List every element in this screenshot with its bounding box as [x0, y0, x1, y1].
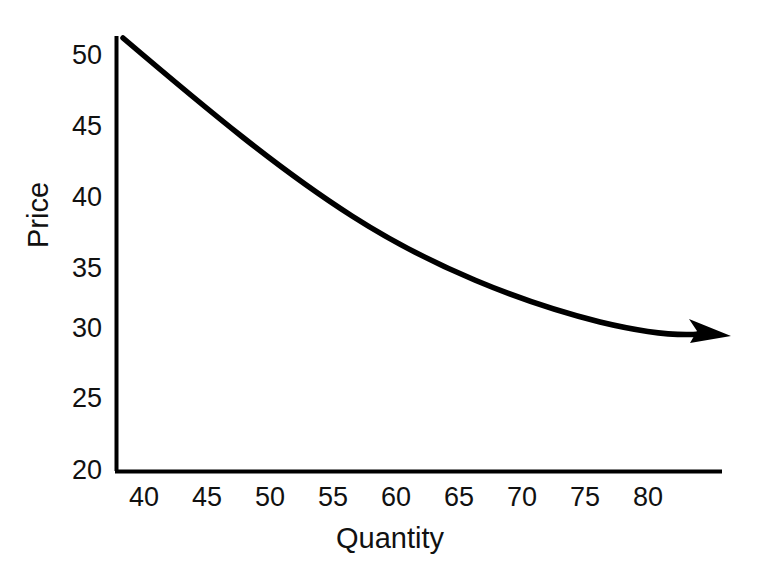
x-tick-label-65: 65	[444, 484, 474, 511]
x-tick-label-50: 50	[255, 484, 285, 511]
y-tick-label-20: 20	[60, 457, 102, 484]
x-tick-label-75: 75	[570, 484, 600, 511]
x-tick-label-55: 55	[318, 484, 348, 511]
demand-curve	[123, 38, 700, 335]
y-tick-label-40: 40	[60, 184, 102, 211]
x-tick-label-80: 80	[633, 484, 663, 511]
x-tick-label-45: 45	[192, 484, 222, 511]
curve-arrowhead-icon	[689, 319, 731, 343]
y-tick-label-45: 45	[60, 113, 102, 140]
x-tick-label-40: 40	[129, 484, 159, 511]
y-tick-label-30: 30	[60, 315, 102, 342]
y-tick-label-25: 25	[60, 385, 102, 412]
y-tick-label-35: 35	[60, 255, 102, 282]
y-tick-label-50: 50	[60, 42, 102, 69]
x-tick-label-70: 70	[507, 484, 537, 511]
x-axis-title: Quantity	[336, 524, 444, 553]
x-tick-label-60: 60	[381, 484, 411, 511]
y-axis-title: Price	[24, 182, 53, 248]
demand-curve-chart: 50 45 40 35 30 25 20 40 45 50 55 60 65 7…	[0, 0, 767, 587]
